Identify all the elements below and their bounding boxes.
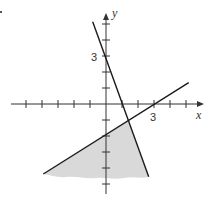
y-tick-label-3: 3 [91,51,97,63]
x-axis-arrow-icon [197,101,204,107]
y-axis-arrow-icon [103,13,109,20]
corner-mark [0,11,2,13]
shaded-region [43,122,149,179]
y-axis-label: y [111,6,118,20]
inequality-graph: 3 x 3 y [0,0,210,202]
x-tick-label-3: 3 [150,111,156,123]
x-axis-label: x [195,108,202,122]
